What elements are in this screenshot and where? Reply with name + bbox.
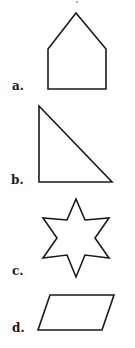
pentagon-shape (48, 13, 106, 89)
six-pointed-star-shape (43, 199, 109, 277)
right-triangle-shape (39, 106, 112, 182)
label-b: b. (11, 174, 24, 186)
label-d: d. (12, 322, 25, 334)
label-c: c. (12, 265, 23, 277)
label-a: a. (12, 80, 24, 92)
shapes-worksheet: a. b. c. d. (0, 0, 135, 348)
parallelogram-shape (38, 295, 114, 330)
cropped-mark (76, 1, 78, 3)
